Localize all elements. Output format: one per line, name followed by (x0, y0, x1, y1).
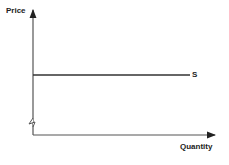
axis-break-icon (29, 118, 35, 127)
supply-curve-label: S (192, 70, 197, 79)
supply-diagram (0, 0, 229, 165)
y-axis-label: Price (6, 6, 26, 15)
x-axis-label: Quantity (180, 142, 212, 151)
